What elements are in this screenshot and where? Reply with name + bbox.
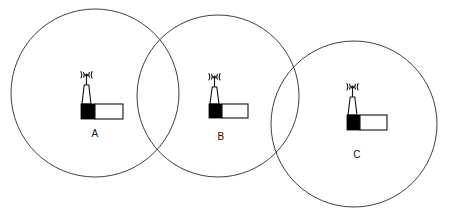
cell-tower-icon-b bbox=[209, 74, 248, 119]
cell-label-b: B bbox=[218, 131, 225, 142]
coverage-area-circle-a bbox=[11, 9, 179, 177]
tower-base-dark-b bbox=[209, 104, 222, 118]
coverage-diagram: A B bbox=[0, 0, 452, 218]
tower-mast-b bbox=[210, 87, 219, 104]
cell-tower-icon-c bbox=[347, 84, 387, 131]
tower-base-dark-c bbox=[347, 115, 360, 130]
tower-mast-a bbox=[82, 85, 91, 104]
tower-base-dark-a bbox=[81, 104, 95, 119]
cell-label-c: C bbox=[353, 149, 361, 160]
coverage-diagram-canvas: A B bbox=[0, 0, 452, 218]
cell-label-a: A bbox=[92, 128, 99, 139]
cell-group-a: A bbox=[11, 9, 179, 177]
tower-base-light-c bbox=[360, 115, 387, 130]
tower-base-light-a bbox=[95, 104, 123, 119]
tower-base-light-b bbox=[222, 104, 248, 118]
cell-group-b: B bbox=[137, 15, 299, 177]
tower-mast-c bbox=[348, 97, 357, 115]
cell-tower-icon-a bbox=[81, 72, 123, 120]
cell-group-c: C bbox=[271, 41, 437, 207]
